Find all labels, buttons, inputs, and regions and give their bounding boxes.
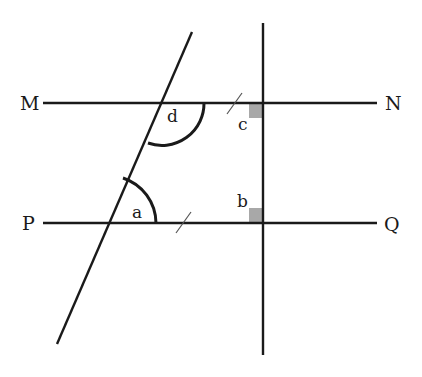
diagram-svg: M N P Q d c a b [0,0,422,377]
label-angle-b: b [237,191,248,211]
label-angle-c: c [238,114,248,134]
right-angle-marker-c [249,104,263,118]
right-angle-marker-b [249,208,263,222]
label-point-q: Q [384,213,400,235]
label-point-p: P [22,212,35,234]
label-angle-a: a [132,202,142,222]
transversal-line [57,32,192,344]
label-point-m: M [20,92,39,114]
geometry-diagram: M N P Q d c a b [0,0,422,377]
label-angle-d: d [167,106,178,126]
label-point-n: N [385,92,402,114]
